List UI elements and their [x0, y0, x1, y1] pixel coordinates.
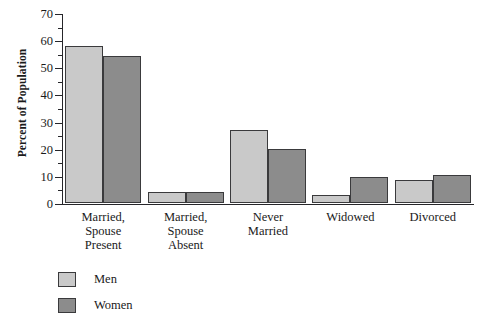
bar: [186, 192, 224, 203]
y-tick-minor: [58, 163, 62, 164]
y-axis-title: Percent of Population: [11, 1, 33, 205]
x-axis-category-label: Never Married: [227, 210, 309, 238]
legend-swatch-women-icon: [58, 298, 76, 313]
bar-chart: Percent of Population 010203040506070 Ma…: [0, 0, 485, 324]
y-axis-line: [62, 14, 63, 205]
y-tick-minor: [58, 136, 62, 137]
y-tick-minor: [58, 82, 62, 83]
bar: [350, 177, 388, 203]
y-tick-major: [55, 150, 62, 151]
y-tick-major: [55, 204, 62, 205]
x-axis-category-label: Widowed: [309, 210, 391, 224]
x-axis-line: [62, 204, 474, 205]
y-tick-major: [55, 14, 62, 15]
y-tick-major: [55, 41, 62, 42]
y-tick-minor: [58, 190, 62, 191]
y-tick-major: [55, 177, 62, 178]
bar-group: [230, 13, 306, 203]
x-axis-category-label: Married, Spouse Present: [62, 210, 144, 252]
legend-swatch-men-icon: [58, 272, 76, 287]
bar-group: [395, 13, 471, 203]
y-tick-major: [55, 123, 62, 124]
bar: [395, 180, 433, 203]
y-tick-label: 60: [41, 35, 54, 48]
legend: Men Women: [58, 269, 133, 321]
y-tick-label: 70: [41, 8, 54, 21]
y-tick-minor: [58, 55, 62, 56]
y-tick-label: 20: [41, 143, 54, 156]
bar: [312, 195, 350, 203]
bar: [65, 46, 103, 203]
legend-item-women: Women: [58, 295, 133, 316]
legend-label-men: Men: [94, 273, 117, 286]
x-axis-category-label: Married, Spouse Absent: [144, 210, 226, 252]
bar: [433, 175, 471, 204]
y-tick-major: [55, 95, 62, 96]
bar-group: [65, 13, 141, 203]
y-tick-label: 0: [47, 198, 53, 211]
legend-label-women: Women: [94, 299, 133, 312]
x-axis-category-label: Divorced: [392, 210, 474, 224]
plot-area: 010203040506070: [62, 14, 474, 204]
y-tick-label: 40: [41, 89, 54, 102]
y-tick-major: [55, 68, 62, 69]
bar: [268, 149, 306, 203]
bar: [103, 56, 141, 203]
bar-group: [312, 13, 388, 203]
y-tick-minor: [58, 109, 62, 110]
y-tick-label: 30: [41, 116, 54, 129]
legend-item-men: Men: [58, 269, 133, 290]
y-tick-minor: [58, 28, 62, 29]
y-tick-label: 10: [41, 171, 54, 184]
bar: [148, 192, 186, 203]
bar: [230, 130, 268, 203]
y-tick-label: 50: [41, 62, 54, 75]
bar-group: [148, 13, 224, 203]
